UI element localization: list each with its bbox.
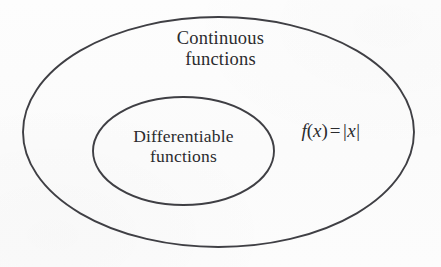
absolute-value-right-bar: | [356, 120, 361, 141]
close-paren: ) [321, 120, 327, 141]
equals-sign: = [328, 120, 343, 141]
outer-set-label-line-2: functions [0, 49, 441, 70]
euler-diagram-figure: Continuous functions Differentiable func… [0, 0, 441, 267]
absolute-value-argument-x: x [347, 120, 355, 141]
example-function-annotation: f(x)=|x| [291, 120, 371, 142]
outer-set-label: Continuous functions [0, 28, 441, 69]
inner-set-label-line-1: Differentiable [133, 126, 234, 146]
inner-set-label: Differentiable functions [93, 127, 274, 166]
outer-set-label-line-1: Continuous [177, 28, 264, 48]
inner-set-label-line-2: functions [93, 147, 274, 167]
